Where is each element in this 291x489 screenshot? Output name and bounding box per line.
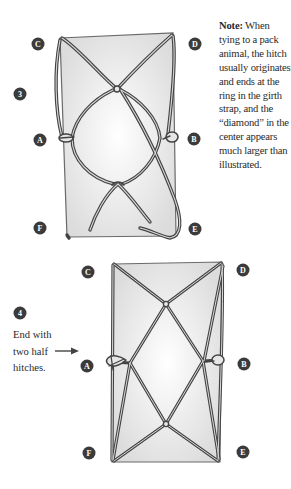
svg-text:F: F [87,449,92,458]
svg-text:4: 4 [18,309,22,318]
corner-badge-f: F [83,447,96,460]
svg-text:E: E [192,225,197,234]
svg-text:3: 3 [18,90,22,99]
corner-badge-b: B [238,358,251,371]
step-badge-3: 3 [14,88,27,101]
svg-text:B: B [241,360,247,369]
corner-badge-d: D [189,38,202,51]
svg-text:E: E [240,448,245,457]
corner-badge-e: E [237,446,250,459]
note-body: When tying to a pack animal, the hitch u… [219,20,290,170]
note-text: Note: When tying to a pack animal, the h… [219,19,291,172]
svg-text:A: A [84,362,90,371]
svg-text:A: A [37,136,43,145]
corner-badge-b: B [188,133,201,146]
diamond-hitch-illustration: 3 C D A B F [0,0,291,489]
corner-badge-e: E [189,223,202,236]
svg-text:C: C [35,40,41,49]
knot-a [59,134,74,142]
step-badge-4: 4 [14,307,27,320]
right-arrow-icon [55,346,79,356]
corner-badge-d: D [237,264,250,277]
corner-badge-c: C [82,266,95,279]
svg-text:C: C [85,268,91,277]
corner-badge-a: A [34,134,47,147]
svg-text:F: F [38,224,43,233]
svg-text:D: D [240,266,246,275]
svg-text:D: D [192,40,198,49]
crossing-top [163,301,168,306]
svg-text:B: B [191,135,197,144]
note-heading: Note: [219,20,243,31]
corner-badge-a: A [81,360,94,373]
crossing-top [114,86,120,92]
corner-badge-c: C [32,38,45,51]
crossing-bottom [163,421,168,426]
figure-3: 3 C D A B F [14,33,202,238]
corner-badge-f: F [34,222,47,235]
